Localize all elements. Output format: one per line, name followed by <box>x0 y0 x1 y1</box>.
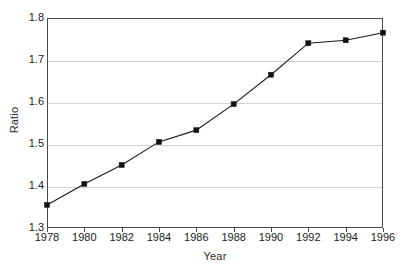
series-layer <box>0 0 410 277</box>
data-point-marker <box>82 181 87 186</box>
series-line <box>47 33 383 205</box>
data-point-marker <box>269 72 274 77</box>
data-point-marker <box>231 102 236 107</box>
data-point-marker <box>306 41 311 46</box>
data-point-marker <box>119 163 124 168</box>
data-point-marker <box>157 139 162 144</box>
x-axis-title-label: Year <box>203 250 226 262</box>
series-markers <box>45 30 386 207</box>
line-chart-figure: Ratio 1.31.41.51.61.71.8 197819801982198… <box>0 0 410 277</box>
data-point-marker <box>343 38 348 43</box>
x-axis-title: Year <box>47 250 383 262</box>
data-point-marker <box>45 202 50 207</box>
data-point-marker <box>381 30 386 35</box>
data-point-marker <box>194 128 199 133</box>
